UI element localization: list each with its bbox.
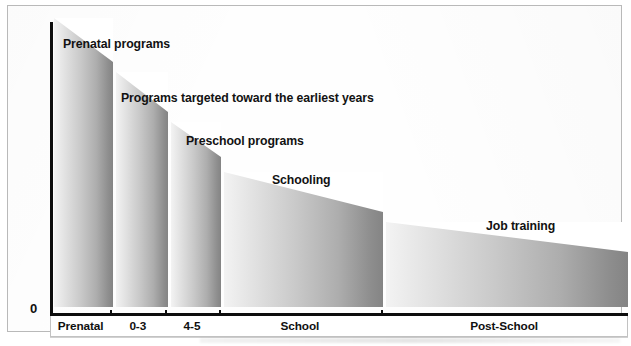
bar-post-school: [386, 222, 628, 307]
bar-school: [224, 172, 383, 307]
annotation-preschool-programs: Preschool programs: [186, 134, 304, 148]
bar-prenatal: [54, 18, 113, 307]
x-axis-label-0-3: 0-3: [110, 316, 165, 336]
bar-gradient-fill: [54, 18, 113, 307]
x-axis-tick: [110, 310, 112, 316]
annotation-schooling: Schooling: [272, 173, 331, 187]
x-axis-label-text: 0-3: [129, 319, 146, 333]
plot-area: Prenatal programsPrograms targeted towar…: [8, 6, 621, 331]
annotation-prenatal-programs: Prenatal programs: [63, 37, 170, 51]
x-axis-label-text: Post-School: [470, 319, 538, 333]
x-axis-tick: [381, 310, 383, 316]
x-axis-label-text: Prenatal: [58, 319, 104, 333]
x-axis-label-4-5: 4-5: [165, 316, 218, 336]
annotation-programs-targeted-toward-the-earliest-years: Programs targeted toward the earliest ye…: [121, 91, 374, 105]
x-axis-label-post-school: Post-School: [381, 316, 627, 336]
category-axis-strip: Prenatal0-34-5SchoolPost-School: [50, 316, 628, 337]
x-axis-label-school: School: [219, 316, 382, 336]
bar-gradient-fill: [116, 72, 168, 307]
x-axis-tick: [165, 310, 167, 316]
scan-artifact: [200, 338, 620, 343]
x-axis-label-prenatal: Prenatal: [51, 316, 110, 336]
bar-0-3: [116, 72, 168, 307]
x-axis-label-text: School: [280, 319, 319, 333]
bar-4-5: [171, 122, 221, 307]
figure-frame: Rate of Return to Investment in Human Ca…: [7, 5, 622, 332]
x-axis-label-text: 4-5: [184, 319, 201, 333]
x-axis-tick: [219, 310, 221, 316]
annotation-job-training: Job training: [486, 219, 555, 233]
